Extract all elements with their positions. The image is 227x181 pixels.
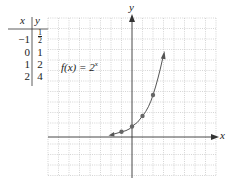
y-axis-label: y	[129, 1, 134, 13]
function-curve	[112, 57, 163, 135]
data-point	[140, 114, 144, 118]
data-point	[151, 93, 155, 97]
curve-right-arrow-icon	[161, 51, 166, 59]
function-label: f(x) = 2x	[61, 60, 98, 73]
data-point	[119, 130, 123, 134]
graph	[0, 0, 227, 181]
x-axis-label: x	[220, 129, 225, 141]
x-axis-arrow-icon	[211, 134, 219, 140]
curve-left-arrow-icon	[109, 132, 115, 137]
data-point	[130, 124, 134, 128]
